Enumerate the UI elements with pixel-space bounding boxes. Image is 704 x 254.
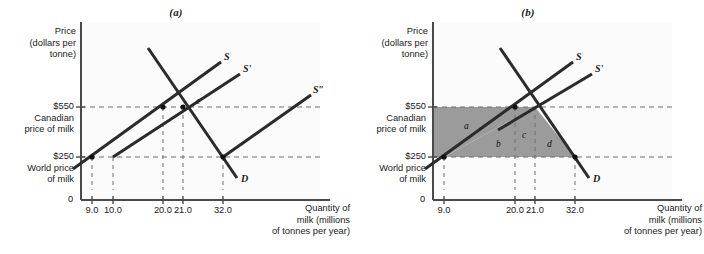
y-title-line2: (dollars per: [352, 38, 428, 50]
y-title-line2: (dollars per: [0, 38, 76, 50]
x-title-line2: milk (millions: [588, 215, 702, 227]
price-550-caption-line1: Canadian: [0, 113, 74, 125]
panel-a-curve-label-S-prime: S': [243, 63, 251, 74]
price-250-value: $250: [352, 151, 426, 163]
plot-background: [81, 22, 320, 200]
panel-a-curve-label-D: D: [241, 173, 248, 184]
x-title-line1: Quantity of: [588, 203, 702, 215]
point-marker-e: [180, 104, 185, 109]
point-marker-9-250: [441, 154, 446, 159]
point-marker-32-250: [220, 154, 225, 159]
price-250-caption-line2: of milk: [0, 174, 74, 186]
y-title-line3: tonne): [0, 49, 76, 61]
panel-a: (a) Price: [0, 0, 352, 254]
panel-b-curve-label-S-prime: S': [595, 63, 603, 74]
y-title-line1: Price: [0, 26, 76, 38]
panel-b-curve-label-S: S: [576, 51, 582, 62]
panel-a-curve-label-S: S: [224, 51, 230, 62]
panel-b-region-label-b: b: [496, 139, 501, 149]
panel-b: (b): [352, 0, 704, 254]
panel-b-region-label-a: a: [464, 121, 469, 131]
x-title-line2: milk (millions: [236, 215, 350, 227]
panel-b-x-axis-title: Quantity of milk (millions of tonnes per…: [588, 203, 702, 238]
price-550-caption-line2: price of milk: [0, 124, 74, 136]
panel-b-xtick-32: 32.0: [560, 205, 590, 215]
panel-a-origin-label: 0: [68, 194, 73, 204]
panel-a-y-axis-title: Price (dollars per tonne): [0, 26, 76, 61]
y-title-line3: tonne): [352, 49, 428, 61]
panel-b-origin-label: 0: [420, 194, 425, 204]
panel-b-y-axis-title: Price (dollars per tonne): [352, 26, 428, 61]
panel-b-xtick-9: 9.0: [429, 205, 459, 215]
panel-a-price-550-label: $550 Canadian price of milk: [0, 101, 74, 136]
y-title-line1: Price: [352, 26, 428, 38]
panel-b-region-label-c: c: [522, 130, 526, 140]
panel-a-curve-label-S-dprime: S″: [313, 84, 324, 95]
panel-a-x-axis-title: Quantity of milk (millions of tonnes per…: [236, 203, 350, 238]
panel-b-curve-label-D: D: [593, 173, 600, 184]
x-title-line3: of tonnes per year): [236, 226, 350, 238]
x-title-line3: of tonnes per year): [588, 226, 702, 238]
point-marker-9-250: [89, 154, 94, 159]
panel-a-xtick-10: 10.0: [97, 205, 129, 215]
panel-a-xtick-32: 32.0: [208, 205, 238, 215]
panel-a-xtick-21: 21.0: [168, 205, 198, 215]
point-marker-20-550: [160, 104, 165, 109]
price-250-caption-line1: World price: [352, 163, 426, 175]
price-550-value: $550: [352, 101, 426, 113]
panel-b-region-label-d: d: [547, 139, 552, 149]
panel-b-price-250-label: $250 World price of milk: [352, 151, 426, 186]
price-550-value: $550: [0, 101, 74, 113]
x-title-line1: Quantity of: [236, 203, 350, 215]
panel-b-xtick-21: 21.0: [520, 205, 550, 215]
price-250-caption-line1: World price: [0, 163, 74, 175]
price-250-value: $250: [0, 151, 74, 163]
price-550-caption-line2: price of milk: [352, 124, 426, 136]
panel-a-price-250-label: $250 World price of milk: [0, 151, 74, 186]
panel-a-point-label-e: e: [196, 96, 200, 106]
price-250-caption-line2: of milk: [352, 174, 426, 186]
price-550-caption-line1: Canadian: [352, 113, 426, 125]
point-marker-32-250: [572, 154, 577, 159]
point-marker-20-550: [512, 104, 517, 109]
panel-b-price-550-label: $550 Canadian price of milk: [352, 101, 426, 136]
